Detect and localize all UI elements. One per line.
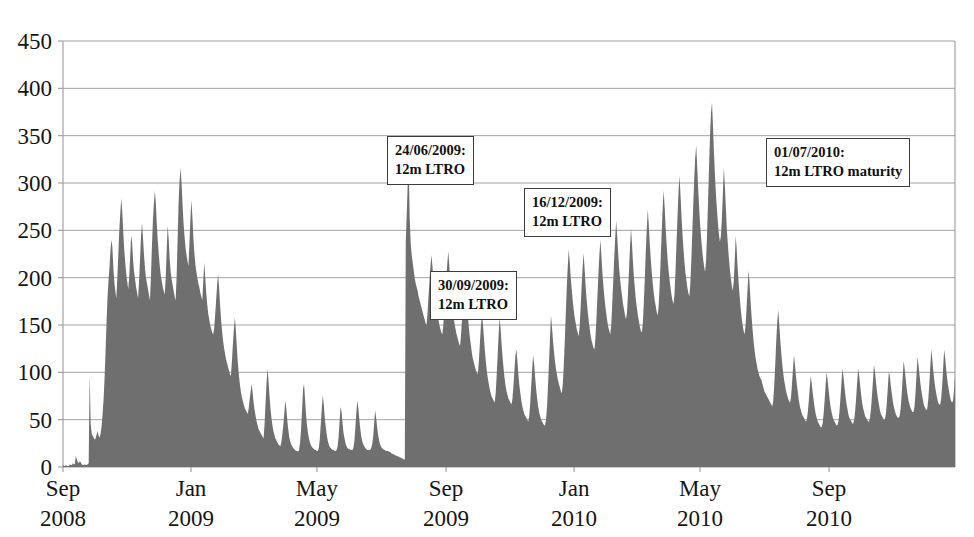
x-axis-year-label: 2009 [423, 506, 469, 531]
y-axis-tick-label: 200 [18, 266, 53, 291]
x-axis-year-label: 2008 [40, 506, 86, 531]
y-axis-labels: 050100150200250300350400450 [18, 29, 64, 480]
y-axis-tick-label: 50 [29, 408, 52, 433]
x-axis-month-label: May [296, 476, 339, 501]
annotation-text: 12m LTRO [395, 160, 466, 179]
x-axis-month-label: Sep [812, 476, 847, 501]
deposit-facility-area-chart: 050100150200250300350400450 Sep2008Jan20… [0, 0, 974, 537]
annotation-callout: 24/06/2009:12m LTRO [387, 136, 474, 185]
x-axis-month-label: Sep [429, 476, 464, 501]
y-axis-tick-label: 400 [18, 76, 53, 101]
annotation-text: 12m LTRO [532, 212, 603, 231]
annotation-date: 30/09/2009: [438, 276, 509, 295]
annotation-callout: 16/12/2009:12m LTRO [524, 188, 611, 237]
y-axis-tick-label: 250 [18, 218, 53, 243]
annotation-callout: 01/07/2010:12m LTRO maturity [766, 138, 910, 187]
x-axis-month-label: Sep [46, 476, 81, 501]
x-axis-year-label: 2009 [294, 506, 340, 531]
y-axis-tick-label: 150 [18, 313, 53, 338]
y-axis-tick-label: 450 [18, 29, 53, 54]
x-axis-month-label: Jan [176, 476, 207, 501]
annotation-date: 16/12/2009: [532, 193, 603, 212]
x-axis-month-label: Jan [559, 476, 590, 501]
x-tick-marks [63, 467, 829, 472]
y-axis-tick-label: 350 [18, 124, 53, 149]
chart-figure: 050100150200250300350400450 Sep2008Jan20… [0, 0, 974, 537]
annotation-text: 12m LTRO maturity [774, 162, 902, 181]
annotation-callout: 30/09/2009:12m LTRO [430, 271, 517, 320]
x-axis-year-label: 2010 [677, 506, 723, 531]
x-axis-labels: Sep2008Jan2009May2009Sep2009Jan2010May20… [40, 476, 852, 531]
annotation-date: 01/07/2010: [774, 143, 902, 162]
y-axis-tick-label: 100 [18, 360, 53, 385]
y-axis-tick-label: 300 [18, 171, 53, 196]
annotation-date: 24/06/2009: [395, 141, 466, 160]
x-axis-year-label: 2010 [806, 506, 852, 531]
annotation-text: 12m LTRO [438, 295, 509, 314]
x-axis-month-label: May [679, 476, 722, 501]
x-axis-year-label: 2009 [168, 506, 214, 531]
x-axis-year-label: 2010 [551, 506, 597, 531]
